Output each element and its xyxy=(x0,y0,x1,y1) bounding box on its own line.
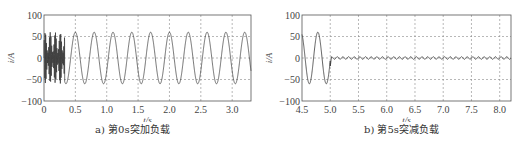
x-tick-label: 8.0 xyxy=(493,104,506,115)
x-tick-label: 5.5 xyxy=(352,104,365,115)
x-tick-label: 6.5 xyxy=(409,104,422,115)
x-tick-label: 0 xyxy=(42,104,47,115)
grid xyxy=(44,15,251,101)
chart-b-caption: b) 第5s突减负载 xyxy=(364,121,439,136)
chart-a-caption: a) 第0s突加负载 xyxy=(95,121,170,136)
x-tick-label: 7.5 xyxy=(465,104,478,115)
x-tick-label: 2.5 xyxy=(195,104,208,115)
x-tick-label: 7.0 xyxy=(437,104,450,115)
y-tick-label: 100 xyxy=(285,10,300,21)
y-tick-label: 0 xyxy=(295,53,300,64)
y-tick-label: 50 xyxy=(32,31,42,42)
x-tick-label: 0.5 xyxy=(69,104,82,115)
current-waveform xyxy=(302,32,511,84)
x-tick-label: 5.0 xyxy=(324,104,337,115)
chart-b-panel: 4.55.05.56.06.57.07.58.0−100−50050100t/s… xyxy=(262,0,525,146)
y-tick-label: −50 xyxy=(26,74,42,85)
x-tick-label: 1.5 xyxy=(132,104,145,115)
x-tick-label: 3.0 xyxy=(226,104,239,115)
y-tick-label: 0 xyxy=(37,53,42,64)
current-waveform xyxy=(44,32,251,84)
x-tick-label: 2.0 xyxy=(163,104,176,115)
chart-a-plot: 00.51.01.52.02.53.0−100−50050100t/si/A xyxy=(0,0,262,122)
y-axis-label: i/A xyxy=(6,52,16,63)
y-tick-label: −50 xyxy=(284,74,300,85)
y-tick-label: −100 xyxy=(21,96,42,107)
x-tick-label: 1.0 xyxy=(100,104,113,115)
y-tick-label: 50 xyxy=(290,31,300,42)
plot-frame xyxy=(44,15,251,101)
x-tick-label: 6.0 xyxy=(380,104,393,115)
chart-a-panel: 00.51.01.52.02.53.0−100−50050100t/si/A a… xyxy=(0,0,262,146)
chart-b-plot: 4.55.05.56.06.57.07.58.0−100−50050100t/s… xyxy=(262,0,525,122)
y-tick-label: −100 xyxy=(279,96,300,107)
y-axis-label: i/A xyxy=(264,52,274,63)
y-tick-label: 100 xyxy=(27,10,42,21)
